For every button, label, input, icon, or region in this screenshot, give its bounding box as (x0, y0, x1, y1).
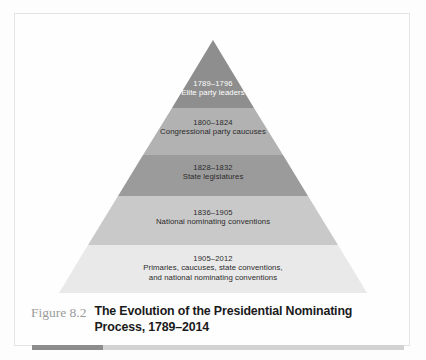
caption-rule-accent (32, 345, 103, 350)
pyramid-diagram: 1789–1796 Elite party leaders 1800–1824 … (0, 0, 426, 300)
figure-title: The Evolution of the Presidential Nomina… (95, 303, 353, 336)
pyramid-tier-3-shape (118, 155, 308, 196)
pyramid-tier-5-shape (59, 245, 367, 293)
figure-caption: Figure 8.2 The Evolution of the Presiden… (0, 303, 426, 336)
pyramid-tier-4-shape (88, 196, 338, 245)
pyramid-tier-1-shape (172, 40, 254, 108)
figure-title-line-1: The Evolution of the Presidential Nomina… (95, 304, 353, 318)
figure-root: 1789–1796 Elite party leaders 1800–1824 … (0, 0, 426, 360)
pyramid-svg (0, 0, 426, 300)
caption-row: Figure 8.2 The Evolution of the Presiden… (0, 303, 426, 336)
figure-number-label: Figure 8.2 (31, 303, 87, 321)
caption-rule-bar (32, 345, 404, 350)
figure-title-line-2: Process, 1789–2014 (95, 320, 209, 334)
pyramid-tier-2-shape (143, 108, 283, 155)
